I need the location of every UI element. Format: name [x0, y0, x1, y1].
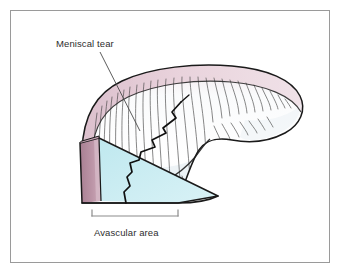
- figure-container: Meniscal tear Avascular area: [0, 0, 341, 274]
- avascular-bracket: [92, 210, 178, 216]
- label-avascular-area: Avascular area: [94, 228, 159, 238]
- label-meniscal-tear: Meniscal tear: [56, 39, 114, 49]
- meniscus-illustration: [0, 0, 341, 274]
